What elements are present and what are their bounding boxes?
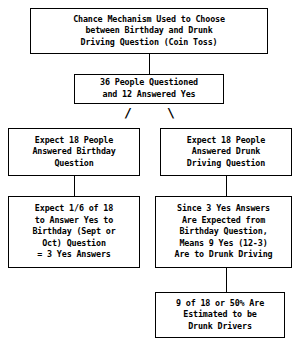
- node-line: Question: [54, 158, 93, 170]
- connector-chance-to-questioned: [149, 54, 150, 74]
- connector-birthday-to-calculation: [74, 176, 75, 196]
- node-final-result: 9 of 18 or 50% Are Estimated to be Drunk…: [155, 292, 285, 338]
- node-line: Expect 18 People: [35, 135, 113, 147]
- connector-calculation-to-result: [226, 268, 227, 292]
- node-line: Are Expected from: [182, 215, 265, 227]
- node-line: Are to Drunk Driving: [175, 249, 273, 261]
- node-expect-18-birthday: Expect 18 People Answered Birthday Quest…: [8, 128, 140, 176]
- node-line: Estimated to be: [183, 309, 256, 321]
- node-line: Means 9 Yes (12-3): [179, 238, 267, 250]
- node-chance-mechanism: Chance Mechanism Used to Choose between …: [30, 8, 268, 54]
- node-line: Expect 1/6 of 18: [35, 203, 113, 215]
- node-line: to Answer Yes to: [35, 215, 113, 227]
- node-line: Since 3 Yes Answers: [177, 203, 270, 215]
- node-line: Chance Mechanism Used to Choose: [73, 14, 225, 26]
- connector-drunk-to-calculation: [226, 176, 227, 196]
- node-line: Answered Drunk: [192, 146, 261, 158]
- node-line: and 12 Answered Yes: [103, 89, 196, 101]
- node-line: 36 People Questioned: [100, 77, 198, 89]
- flowchart-canvas: Chance Mechanism Used to Choose between …: [0, 0, 302, 344]
- node-line: 9 of 18 or 50% Are: [176, 298, 264, 310]
- node-line: Driving Question (Coin Toss): [81, 37, 218, 49]
- node-people-questioned: 36 People Questioned and 12 Answered Yes: [74, 74, 224, 104]
- node-line: = 3 Yes Answers: [37, 249, 110, 261]
- node-line: Drunk Drivers: [188, 321, 252, 333]
- node-line: Birthday (Sept or: [32, 226, 115, 238]
- node-line: between Birthday and Drunk: [85, 25, 212, 37]
- node-line: Oct) Question: [42, 238, 106, 250]
- connector-branch-left: /: [124, 106, 132, 120]
- node-line: Answered Birthday: [32, 146, 115, 158]
- node-expect-18-drunk-driving: Expect 18 People Answered Drunk Driving …: [160, 128, 292, 176]
- node-birthday-yes-calculation: Expect 1/6 of 18 to Answer Yes to Birthd…: [8, 196, 140, 268]
- node-line: Driving Question: [187, 158, 265, 170]
- node-drunk-driving-yes-calculation: Since 3 Yes Answers Are Expected from Bi…: [155, 196, 292, 268]
- connector-branch-right: \: [167, 106, 175, 120]
- node-line: Birthday Question,: [179, 226, 267, 238]
- node-line: Expect 18 People: [187, 135, 265, 147]
